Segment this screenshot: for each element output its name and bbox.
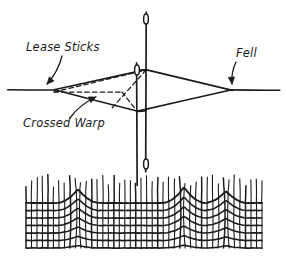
stick-eye-short-stick-eye-top [135,65,140,75]
label-fell: Fell [236,46,257,60]
stick-eye-long-stick-eye-top [144,14,149,24]
stick-eye-long-stick-eye-bottom [144,159,149,169]
stick-short-stick [137,63,138,185]
stick-long-stick [146,12,147,172]
weaving-diagram-figure: Lease Sticks Fell Crossed Warp [0,0,286,258]
warp-thread [245,186,246,203]
label-crossed-warp: Crossed Warp [23,116,105,130]
warp-thread [70,176,71,198]
warp-thread [195,182,196,200]
label-lease-sticks: Lease Sticks [26,40,100,54]
stick-crossbar-lower [137,111,146,112]
diagram-canvas: Lease Sticks Fell Crossed Warp [0,0,286,258]
